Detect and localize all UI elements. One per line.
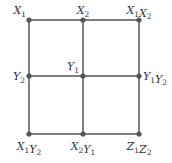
node-n01 — [26, 73, 31, 78]
node-label-n21: Y1Y2 — [143, 70, 167, 87]
grid-diagram: X1X2X1X2Y2Y1Y1Y2X1Y2X2Y1Z1Z2 — [0, 0, 172, 163]
node-n02 — [26, 131, 31, 136]
node-n22 — [136, 131, 141, 136]
node-label-n10: X2 — [76, 4, 90, 19]
node-n12 — [80, 131, 85, 136]
node-label-n20: X1X2 — [125, 4, 151, 21]
node-label-n12: X2Y1 — [70, 140, 96, 157]
node-label-n01: Y2 — [13, 70, 25, 85]
node-label-n11: Y1 — [67, 60, 79, 75]
node-label-n02: X1Y2 — [16, 140, 42, 157]
node-n00 — [26, 17, 31, 22]
node-label-n00: X1 — [12, 4, 26, 19]
node-label-n22: Z1Z2 — [126, 140, 152, 157]
node-n21 — [136, 73, 141, 78]
node-n11 — [80, 73, 85, 78]
grid-nodes — [26, 17, 141, 136]
